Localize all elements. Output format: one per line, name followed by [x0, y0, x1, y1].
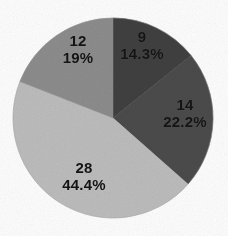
pie-label-9-percent: 14.3%: [112, 46, 172, 63]
pie-label-28-value: 28: [48, 160, 120, 177]
pie-label-9-value: 9: [112, 29, 172, 46]
pie-label-14: 14 22.2%: [154, 97, 216, 131]
pie-label-12: 12 19%: [50, 33, 106, 67]
pie-chart-figure: 9 14.3% 14 22.2% 28 44.4% 12 19%: [0, 0, 228, 236]
pie-label-12-percent: 19%: [50, 50, 106, 67]
pie-label-14-percent: 22.2%: [154, 114, 216, 131]
pie-label-28: 28 44.4%: [48, 160, 120, 194]
pie-label-28-percent: 44.4%: [48, 177, 120, 194]
pie-label-14-value: 14: [154, 97, 216, 114]
pie-label-9: 9 14.3%: [112, 29, 172, 63]
pie-label-12-value: 12: [50, 33, 106, 50]
